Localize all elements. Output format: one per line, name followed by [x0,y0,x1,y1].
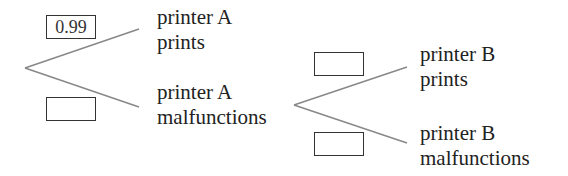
label-b-malfunctions-line2: malfunctions [420,146,530,171]
label-b-malfunctions: printer B malfunctions [420,121,530,171]
label-a-malfunctions: printer A malfunctions [157,80,267,130]
prob-a-malfunctions-input[interactable] [46,97,96,121]
label-a-prints: printer A prints [157,5,232,55]
label-a-prints-line1: printer A [157,5,232,30]
label-a-malfunctions-line1: printer A [157,80,267,105]
label-a-malfunctions-line2: malfunctions [157,105,267,130]
prob-a-prints-input[interactable] [46,15,96,39]
label-b-prints-line2: prints [420,67,495,92]
label-b-prints: printer B prints [420,42,495,92]
label-a-prints-line2: prints [157,30,232,55]
prob-b-malfunctions-input[interactable] [314,132,364,156]
label-b-prints-line1: printer B [420,42,495,67]
prob-b-prints-input[interactable] [314,52,364,76]
label-b-malfunctions-line1: printer B [420,121,530,146]
